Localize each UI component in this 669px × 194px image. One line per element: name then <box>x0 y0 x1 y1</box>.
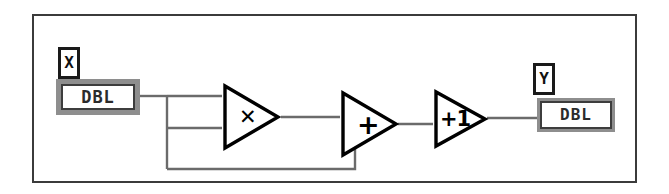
add-node-shape <box>343 93 396 155</box>
output-terminal-inner: DBL <box>540 101 612 129</box>
output-terminal-label: Y <box>533 63 555 95</box>
multiply-node[interactable]: ✕ <box>222 84 281 150</box>
diagram-canvas: X DBL ✕ + +1 Y D <box>0 0 669 194</box>
increment-node-shape <box>436 92 485 146</box>
output-terminal-y[interactable]: DBL <box>537 98 615 132</box>
input-terminal-x[interactable]: DBL <box>56 79 140 115</box>
output-terminal-label-text: Y <box>539 71 549 87</box>
input-terminal-datatype: DBL <box>81 89 115 106</box>
input-terminal-inner: DBL <box>61 84 135 110</box>
multiply-node-shape <box>225 86 278 148</box>
output-terminal-datatype: DBL <box>560 107 592 123</box>
input-terminal-label: X <box>58 47 80 79</box>
add-node[interactable]: + <box>340 91 399 157</box>
increment-node[interactable]: +1 <box>433 90 488 148</box>
input-terminal-label-text: X <box>64 55 74 71</box>
